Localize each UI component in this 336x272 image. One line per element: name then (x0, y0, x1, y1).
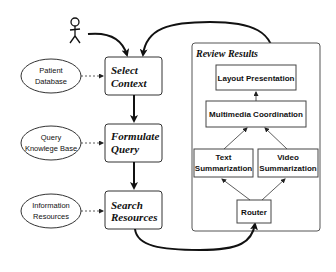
video-summarization-line1: Video (277, 153, 299, 162)
step-label-line1: Search (111, 199, 143, 211)
step-label-line1: Select (111, 64, 139, 76)
source-patient-database: Patient Database (21, 59, 81, 93)
step-label-line1: Formulate (110, 130, 159, 142)
step-label-line2: Resources (110, 211, 157, 223)
source-label-line1: Information (32, 201, 70, 210)
source-label-line1: Query (41, 133, 62, 142)
source-query-knowledge-base: Query Knowlege Base (21, 126, 81, 160)
step-label-line2: Query (111, 143, 139, 155)
text-summarization-box: Text Summarization (194, 149, 253, 177)
layout-presentation-label: Layout Presentation (218, 74, 295, 83)
workflow-diagram: Select Context Formulate Query Search Re… (0, 0, 336, 272)
text-summarization-line2: Summarization (195, 164, 252, 173)
layout-presentation-box: Layout Presentation (216, 65, 296, 90)
source-label-line1: Patient (39, 66, 63, 75)
step-formulate-query: Formulate Query (105, 124, 162, 162)
multimedia-coordination-label: Multimedia Coordination (209, 110, 303, 119)
source-information-resources: Information Resources (21, 194, 81, 228)
video-summarization-line2: Summarization (259, 164, 316, 173)
step-select-context: Select Context (105, 57, 162, 95)
source-label-line2: Database (35, 77, 67, 86)
source-label-line2: Resources (33, 212, 69, 221)
source-label-line2: Knowlege Base (25, 144, 77, 153)
step-search-resources: Search Resources (105, 191, 162, 229)
router-box: Router (237, 200, 271, 223)
video-summarization-box: Video Summarization (258, 149, 318, 177)
step-label-line2: Context (111, 77, 147, 89)
text-summarization-line1: Text (216, 153, 232, 162)
multimedia-coordination-box: Multimedia Coordination (206, 101, 306, 127)
router-label: Router (241, 208, 267, 217)
review-results-title: Review Results (195, 48, 258, 59)
actor-to-select-arrow (88, 34, 127, 55)
user-actor-icon (70, 18, 80, 43)
